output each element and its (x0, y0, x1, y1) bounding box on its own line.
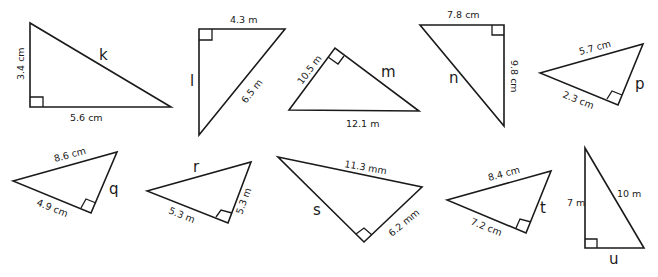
label-p-leg: 2.3 cm (561, 89, 595, 111)
triangle-s: 11.3 mm 6.2 mm s (278, 157, 422, 242)
label-n-top-leg: 7.8 cm (447, 9, 480, 20)
label-u-vertical-leg: 7 m (567, 197, 585, 208)
label-q-leg: 4.9 cm (35, 197, 69, 219)
variable-q: q (109, 180, 119, 198)
label-r-right-leg: 5.3 m (234, 186, 254, 216)
variable-l: l (190, 72, 194, 90)
label-s-hypotenuse: 11.3 mm (344, 158, 388, 176)
triangle-p: 5.7 cm 2.3 cm p (540, 38, 645, 111)
triangle-m: 10.5 m 12.1 m m (289, 48, 419, 129)
label-m-hypotenuse: 12.1 m (346, 118, 379, 129)
label-k-vertical-leg: 3.4 cm (15, 47, 26, 80)
triangle-k: 3.4 cm 5.6 cm k (15, 23, 171, 123)
label-r-bottom-leg: 5.3 m (167, 205, 197, 225)
triangle-l: 4.3 m 6.5 m l (190, 14, 285, 135)
triangle-t: 8.4 cm 7.2 cm t (447, 164, 551, 238)
label-t-leg: 7.2 cm (469, 216, 503, 238)
variable-r: r (193, 158, 200, 176)
label-u-hypotenuse: 10 m (617, 188, 641, 199)
label-s-leg: 6.2 mm (386, 207, 421, 239)
variable-n: n (449, 69, 459, 87)
triangle-u: 7 m 10 m u (567, 148, 644, 268)
label-n-vertical-leg: 9.8 cm (509, 60, 520, 93)
label-k-horizontal-leg: 5.6 cm (70, 112, 103, 123)
variable-u: u (609, 250, 619, 268)
label-l-top-leg: 4.3 m (230, 14, 257, 25)
triangles-diagram: 3.4 cm 5.6 cm k 4.3 m 6.5 m l 10.5 m 12.… (0, 0, 658, 277)
triangle-n: 7.8 cm 9.8 cm n (420, 9, 520, 126)
variable-p: p (635, 75, 645, 93)
variable-s: s (313, 201, 321, 219)
triangle-q: 8.6 cm 4.9 cm q (13, 145, 119, 219)
triangle-r: r 5.3 m 5.3 m (147, 158, 253, 225)
variable-k: k (99, 46, 108, 64)
variable-m: m (381, 63, 396, 81)
variable-t: t (540, 199, 546, 217)
